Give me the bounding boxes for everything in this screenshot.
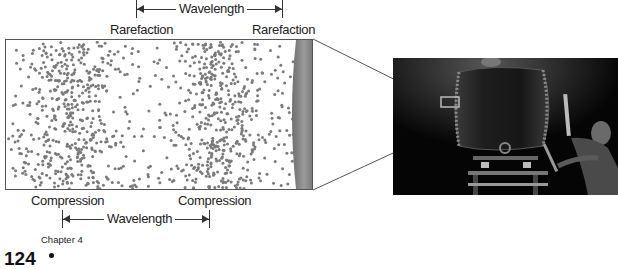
rarefaction-label-right: Rarefaction bbox=[252, 22, 315, 37]
wavelength-tick-right bbox=[282, 0, 283, 18]
arrow-right-icon bbox=[275, 5, 282, 13]
arrow-right-icon bbox=[202, 215, 209, 223]
compression-label-right: Compression bbox=[178, 193, 251, 208]
compression-label-left: Compression bbox=[31, 193, 104, 208]
wavelength-tick-right bbox=[209, 210, 210, 228]
bottom-wavelength-indicator: Wavelength bbox=[62, 210, 210, 228]
top-wavelength-label: Wavelength bbox=[176, 0, 247, 18]
taiko-drum-photo bbox=[393, 58, 618, 195]
rarefaction-label-left: Rarefaction bbox=[110, 22, 173, 37]
page-number: 124 bbox=[4, 248, 36, 269]
chapter-label: Chapter 4 bbox=[41, 234, 83, 245]
drum-head-edge bbox=[290, 40, 312, 189]
air-particles bbox=[6, 40, 313, 190]
top-wavelength-indicator: Wavelength bbox=[136, 0, 283, 18]
bullet-dot bbox=[49, 253, 54, 258]
particle-diagram bbox=[5, 39, 313, 190]
bottom-wavelength-label: Wavelength bbox=[104, 210, 175, 228]
